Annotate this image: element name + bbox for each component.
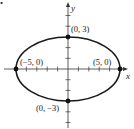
figure-marker: •: [0, 0, 3, 8]
y-axis: y: [66, 2, 76, 128]
x-axis: x: [4, 67, 130, 82]
x-axis-label: x: [125, 71, 130, 81]
point-dot-icon: [66, 35, 71, 40]
y-axis-arrow-icon: [66, 2, 70, 7]
point-dot-icon: [66, 99, 71, 104]
point-label: (5, 0): [93, 57, 112, 67]
point-label: (−5, 0): [20, 57, 43, 67]
point-label: (0, −3): [36, 103, 59, 113]
y-axis-label: y: [70, 3, 75, 13]
point-dot-icon: [118, 67, 123, 72]
point-label: (0, 3): [71, 24, 90, 34]
point-dot-icon: [14, 67, 19, 72]
ellipse-diagram: • x y: [0, 0, 134, 129]
